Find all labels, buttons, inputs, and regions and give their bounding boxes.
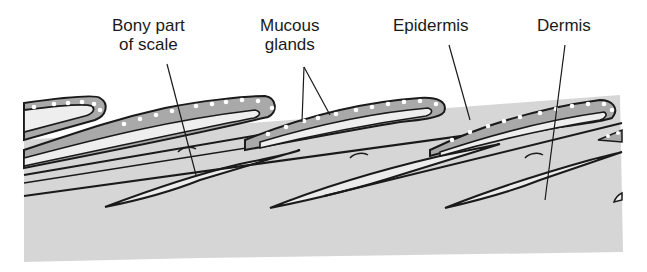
fish-skin-diagram: Bony part of scale Mucous glands Epiderm… [0,0,647,272]
label-epidermis: Epidermis [393,16,469,35]
label-bony-part-of-scale: Bony part of scale [112,16,185,54]
leader-mucous-glands-b [304,67,330,115]
leader-mucous-glands-a [302,67,304,122]
label-dermis: Dermis [537,16,591,35]
label-mucous-glands: Mucous glands [260,16,320,54]
skin-cross-section [0,0,647,272]
